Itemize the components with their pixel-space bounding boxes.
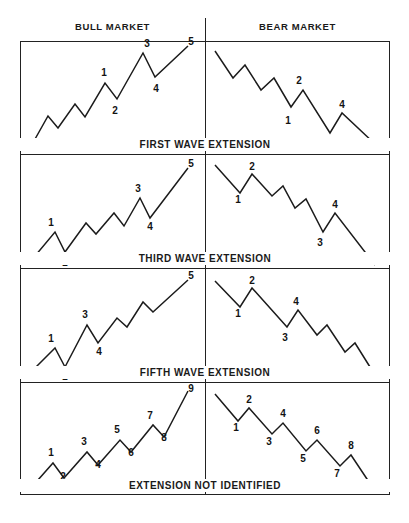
elliott-wave-figure: BULL MARKET BEAR MARKET 1234521435123452… [0, 0, 409, 523]
caption-fifth-wave-extension: FIFTH WAVE EXTENSION [20, 366, 390, 379]
column-header-bull-market: BULL MARKET [20, 21, 205, 32]
row-divider-1 [20, 154, 390, 155]
caption-extension-not-identified: EXTENSION NOT IDENTIFIED [20, 479, 390, 492]
column-header-bear-market: BEAR MARKET [205, 21, 390, 32]
row-divider-3 [20, 382, 390, 383]
caption-first-wave-extension: FIRST WAVE EXTENSION [20, 138, 390, 151]
caption-third-wave-extension: THIRD WAVE EXTENSION [20, 252, 390, 265]
row-divider-2 [20, 268, 390, 269]
